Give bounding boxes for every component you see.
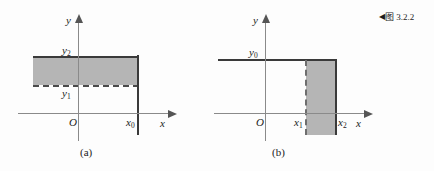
panel-a-label-y2: y2 — [62, 45, 71, 56]
panel-b-y-axis-arrow-icon — [262, 14, 270, 23]
panel-a-x-axis — [18, 113, 170, 114]
panel-a-y-axis-label: y — [66, 15, 71, 26]
panel-a-origin-label: O — [69, 117, 77, 128]
panel-a-sublabel: (a) — [80, 146, 92, 158]
panel-b-boundary-y0 — [218, 59, 337, 61]
panel-b-origin-label: O — [256, 117, 264, 128]
panel-a-y-axis-arrow-icon — [75, 14, 83, 23]
panel-a-label-x0: x0 — [126, 117, 135, 128]
caption-text: 图 3.2.2 — [385, 12, 414, 22]
panel-b-x-axis-label: x — [356, 118, 361, 129]
panel-b-label-y0: y0 — [249, 47, 258, 58]
panel-a-label-y1: y1 — [62, 88, 71, 99]
panel-a-x-axis-label: x — [160, 118, 165, 129]
panel-b-boundary-x2 — [335, 59, 337, 135]
panel-b-label-x2: x2 — [338, 117, 347, 128]
panel-a-boundary-y1 — [33, 85, 139, 87]
panel-b-x-axis — [214, 113, 366, 114]
panel-b-boundary-x1 — [305, 60, 307, 135]
panel-a-boundary-y2 — [33, 56, 139, 58]
panel-b-label-x1: x1 — [294, 117, 303, 128]
panel-b-shaded-region — [306, 61, 336, 135]
figure-3-2-2: y x O y2 y1 x0 (a) — [0, 0, 434, 171]
panel-a-y-axis — [78, 22, 79, 141]
panel-b-y-axis — [265, 22, 266, 141]
panel-a-shaded-region — [33, 58, 138, 85]
panel-a-boundary-x0 — [137, 55, 139, 135]
figure-caption: ◀图 3.2.2 — [379, 10, 414, 23]
panel-b-y-axis-label: y — [253, 15, 258, 26]
panel-b-x-axis-arrow-icon — [364, 110, 373, 118]
panel-a-x-axis-arrow-icon — [168, 110, 177, 118]
panel-b-sublabel: (b) — [272, 146, 285, 158]
